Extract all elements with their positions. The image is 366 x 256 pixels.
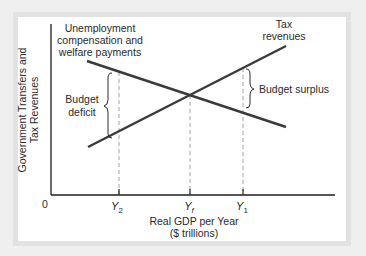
surplus-label: Budget surplus xyxy=(259,83,329,95)
y1-label: Y1 xyxy=(236,200,248,215)
y-axis-label-line2: Tax Revenues xyxy=(28,77,40,144)
transfers-label-line2: compensation and xyxy=(57,34,143,46)
x-axis-label-line1: Real GDP per Year xyxy=(149,215,239,227)
transfers-label-line3: welfare payments xyxy=(58,46,141,58)
y2-label: Y2 xyxy=(111,200,123,215)
deficit-label-line1: Budget xyxy=(65,93,98,105)
x-axis-label-line2: ($ trillions) xyxy=(170,227,218,239)
tax-label-line1: Tax xyxy=(276,18,293,30)
tax-revenues-curve xyxy=(88,46,286,147)
deficit-brace xyxy=(104,73,112,138)
transfers-curve xyxy=(87,61,286,127)
origin-label: 0 xyxy=(42,198,48,210)
y-axis-label-line1: Government Transfers and xyxy=(16,47,28,172)
yf-label: Yf xyxy=(184,200,194,215)
budget-diagram: Government Transfers and Tax Revenues Un… xyxy=(0,0,366,256)
tax-label-line2: revenues xyxy=(262,30,305,42)
deficit-label-line2: deficit xyxy=(68,106,96,118)
surplus-brace xyxy=(246,69,254,108)
transfers-label-line1: Unemployment xyxy=(65,22,136,34)
